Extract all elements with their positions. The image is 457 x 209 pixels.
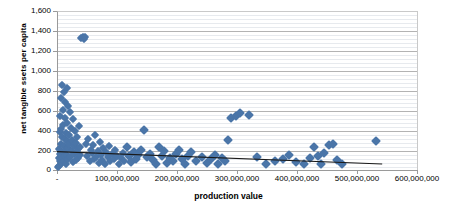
- x-axis-title: production value: [0, 191, 457, 201]
- scatter-chart: net tangible ssets per capita 1,600 1,40…: [0, 0, 457, 209]
- trendline: [0, 0, 457, 209]
